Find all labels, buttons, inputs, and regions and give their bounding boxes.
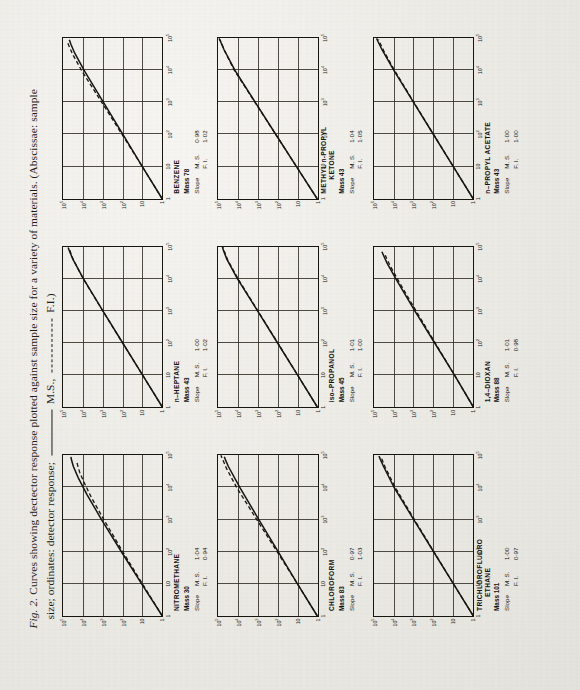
y-axis-tick-label: 103 bbox=[254, 410, 262, 418]
y-axis-tick-label: 103 bbox=[99, 619, 107, 627]
y-axis-tick-label: 103 bbox=[409, 619, 417, 627]
plot-cell: 110102103104105110102103104105CHLOROFORM… bbox=[213, 448, 364, 651]
plot-area: 110102103104105110102103104105 bbox=[217, 454, 318, 617]
axis-box: 110102103104105110102103104105 bbox=[217, 37, 318, 200]
x-axis-tick-label: 105 bbox=[475, 243, 483, 251]
slope-ms-row: SlopeM. S.1·00 bbox=[503, 122, 510, 194]
x-axis-tick-label: 104 bbox=[320, 66, 328, 74]
x-axis-tick-label: 105 bbox=[320, 243, 328, 251]
y-axis-tick-label: 105 bbox=[59, 410, 67, 418]
plot-area: 110102103104105110102103104105 bbox=[217, 37, 318, 200]
y-axis-tick-label: 102 bbox=[119, 201, 127, 209]
slope-fi-key: F. I. bbox=[201, 355, 208, 377]
curve-group bbox=[218, 38, 317, 199]
curve-ms bbox=[219, 38, 317, 199]
curve-ms bbox=[71, 457, 162, 616]
y-axis-tick-label: 104 bbox=[79, 619, 87, 627]
slope-ms-key: M. S. bbox=[503, 147, 510, 169]
y-axis-tick-label: 105 bbox=[59, 201, 67, 209]
x-axis-tick-label: 1 bbox=[165, 615, 171, 618]
axis-box: 110102103104105110102103104105 bbox=[373, 246, 474, 409]
slope-ms-value: 0·98 bbox=[193, 130, 200, 142]
figure-number: Fig. 2. bbox=[27, 598, 39, 629]
plot-grid: 110102103104105110102103104105NITROMETHA… bbox=[54, 21, 526, 669]
slope-fi-row: F. I.1·03 bbox=[356, 548, 363, 611]
x-axis-tick-label: 105 bbox=[475, 34, 483, 42]
x-axis-tick-label: 102 bbox=[165, 548, 173, 556]
x-axis-tick-label: 10 bbox=[320, 581, 326, 587]
x-axis-tick-label: 103 bbox=[320, 516, 328, 524]
x-axis-tick-label: 10 bbox=[165, 164, 171, 170]
y-axis-tick-label: 102 bbox=[274, 201, 282, 209]
x-axis-tick-label: 102 bbox=[475, 130, 483, 138]
compound-name: BENZENE bbox=[173, 130, 181, 193]
slope-fi-value: 1·00 bbox=[512, 130, 519, 142]
x-axis-tick-label: 102 bbox=[320, 339, 328, 347]
x-axis-tick-label: 10 bbox=[475, 372, 481, 378]
slope-fi-key: F. I. bbox=[356, 564, 363, 586]
slope-word: Slope bbox=[348, 173, 355, 194]
y-axis-tick-label: 102 bbox=[429, 410, 437, 418]
compound-name-line2: ETHANE bbox=[484, 539, 492, 611]
slope-ms-key: M. S. bbox=[503, 355, 510, 377]
y-axis-tick-label: 1 bbox=[470, 410, 476, 413]
y-axis-tick-label: 103 bbox=[409, 410, 417, 418]
x-axis-tick-label: 102 bbox=[320, 548, 328, 556]
y-axis-tick-label: 1 bbox=[315, 410, 321, 413]
x-axis-tick-label: 104 bbox=[475, 275, 483, 283]
y-axis-tick-label: 105 bbox=[370, 410, 378, 418]
figure-plot-grid: 110102103104105110102103104105NITROMETHA… bbox=[54, 21, 526, 669]
compound-name: iso–PROPANOL bbox=[328, 339, 336, 402]
y-axis-tick-label: 104 bbox=[234, 619, 242, 627]
legend-fi-label: F.I.) bbox=[44, 293, 56, 312]
slope-ms-key: M. S. bbox=[193, 355, 200, 377]
slope-fi-key: F. I. bbox=[356, 355, 363, 377]
x-axis-tick-label: 104 bbox=[165, 483, 173, 491]
y-axis-tick-label: 10 bbox=[450, 201, 456, 207]
x-axis-tick-label: 103 bbox=[320, 98, 328, 106]
y-axis-tick-label: 103 bbox=[99, 410, 107, 418]
curve-group bbox=[374, 38, 473, 199]
y-axis-tick-label: 1 bbox=[470, 619, 476, 622]
curve-ms bbox=[69, 39, 162, 198]
y-axis-tick-label: 105 bbox=[214, 619, 222, 627]
x-axis-tick-label: 1 bbox=[320, 197, 326, 200]
plot-area: 110102103104105110102103104105 bbox=[62, 246, 163, 409]
x-axis-tick-label: 10 bbox=[475, 164, 481, 170]
mass-label: Mass 30 bbox=[183, 548, 191, 611]
slope-fi-row: F. I.1·02 bbox=[201, 339, 208, 402]
slope-fi-value: 0·97 bbox=[512, 548, 519, 560]
x-axis-tick-label: 102 bbox=[475, 339, 483, 347]
x-axis-tick-label: 10 bbox=[165, 372, 171, 378]
y-axis-tick-label: 103 bbox=[254, 201, 262, 209]
slope-ms-value: 1·01 bbox=[503, 339, 510, 351]
y-axis-tick-label: 105 bbox=[370, 619, 378, 627]
y-axis-tick-label: 103 bbox=[254, 619, 262, 627]
slope-ms-value: 0·97 bbox=[348, 548, 355, 560]
plot-annotation: METHYL n-PROPYLKETONEMass 43SlopeM. S.1·… bbox=[320, 127, 363, 194]
plot-annotation: n–HEPTANEMass 43SlopeM. S.1·00F. I.1·02 bbox=[173, 339, 208, 402]
plot-area: 110102103104105110102103104105 bbox=[373, 454, 474, 617]
curve-fi bbox=[378, 39, 473, 199]
y-axis-tick-label: 104 bbox=[79, 410, 87, 418]
y-axis-tick-label: 10 bbox=[139, 410, 145, 416]
x-axis-tick-label: 1 bbox=[320, 615, 326, 618]
slope-ms-key: M. S. bbox=[193, 564, 200, 586]
curve-fi bbox=[381, 457, 473, 616]
x-axis-tick-label: 102 bbox=[165, 130, 173, 138]
axis-box: 110102103104105110102103104105 bbox=[373, 454, 474, 617]
curve-group bbox=[63, 247, 162, 408]
slope-word: Slope bbox=[503, 173, 510, 194]
x-axis-tick-label: 10 bbox=[320, 372, 326, 378]
plot-area: 110102103104105110102103104105 bbox=[62, 454, 163, 617]
slope-fi-row: F. I.1·05 bbox=[356, 127, 363, 194]
x-axis-tick-label: 104 bbox=[475, 483, 483, 491]
y-axis-tick-label: 102 bbox=[274, 410, 282, 418]
mass-label: Mass 45 bbox=[338, 339, 346, 402]
curve-ms bbox=[225, 457, 318, 616]
slope-word: Slope bbox=[193, 381, 200, 402]
slope-fi-key: F. I. bbox=[512, 147, 519, 169]
slope-ms-row: SlopeM. S.1·00 bbox=[193, 339, 200, 402]
mass-label: Mass 43 bbox=[493, 122, 501, 194]
y-axis-tick-label: 105 bbox=[214, 410, 222, 418]
